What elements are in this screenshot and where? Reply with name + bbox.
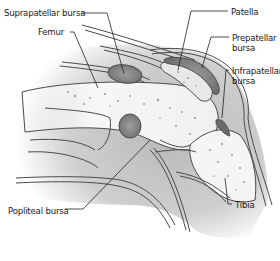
label-infrapatellar-bursa: Infrapatellar bursa — [232, 66, 280, 86]
label-patella: Patella — [231, 7, 258, 17]
label-prepatellar-line1: Prepatellar — [232, 33, 280, 43]
label-prepatellar-bursa: Prepatellar bursa — [232, 33, 280, 53]
label-popliteal-bursa: Popliteal bursa — [8, 206, 69, 216]
label-prepatellar-line2: bursa — [232, 43, 280, 53]
label-infrapatellar-line2: bursa — [232, 76, 280, 86]
popliteal-bursa-shape — [119, 114, 141, 138]
label-femur: Femur — [38, 27, 64, 37]
label-infrapatellar-line1: Infrapatellar — [232, 66, 280, 76]
knee-bursae-diagram: Suprapatellar bursa Femur Patella Prepat… — [0, 0, 280, 261]
label-tibia: Tibia — [235, 200, 254, 210]
label-suprapatellar-bursa: Suprapatellar bursa — [4, 8, 85, 18]
